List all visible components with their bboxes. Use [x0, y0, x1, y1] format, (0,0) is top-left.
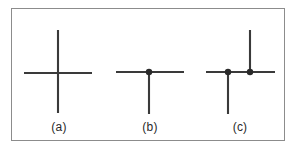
panel-b-T-junction-down	[116, 69, 184, 114]
panel-b-junction-dot	[146, 69, 152, 75]
panel-c-left-junction-dot	[225, 69, 231, 75]
panel-a-caption: (a)	[42, 121, 76, 133]
figure-container: (a) (b) (c)	[0, 0, 295, 150]
panel-b-caption: (b)	[133, 121, 167, 133]
panel-a-cross	[24, 30, 92, 113]
panel-c-double-T-junction	[206, 30, 275, 114]
panel-c-caption: (c)	[223, 121, 257, 133]
panel-c-right-junction-dot	[247, 69, 253, 75]
